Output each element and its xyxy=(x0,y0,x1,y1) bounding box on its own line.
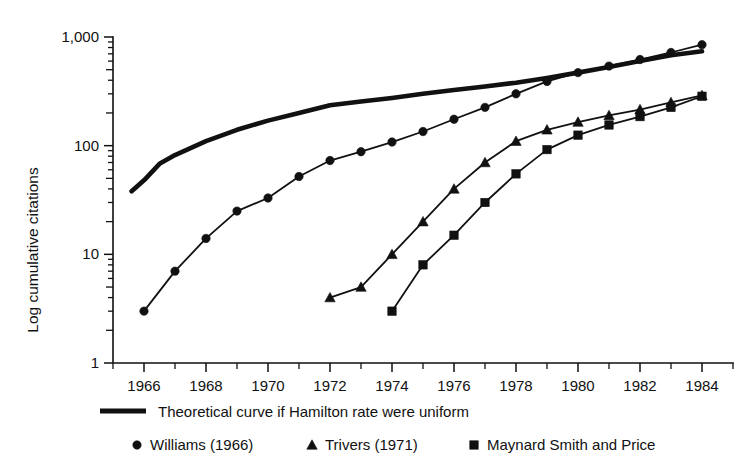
x-tick-label: 1980 xyxy=(561,377,594,394)
chart-canvas: Log cumulative citations 1,000100101 196… xyxy=(0,0,747,473)
x-tick-label: 1966 xyxy=(127,377,160,394)
y-tick-label: 1 xyxy=(91,354,99,371)
data-point-circle xyxy=(450,115,458,123)
data-point-circle xyxy=(171,267,179,275)
series-1 xyxy=(140,40,706,315)
series-path xyxy=(144,45,702,311)
data-point-circle xyxy=(543,77,551,85)
data-point-circle xyxy=(202,234,210,242)
data-point-circle xyxy=(481,103,489,111)
y-axis-ticks: 1,000100101 xyxy=(61,28,113,371)
data-point-circle xyxy=(574,68,582,76)
data-point-square xyxy=(543,145,551,153)
legend-entry-0: Williams (1966) xyxy=(133,436,254,453)
data-point-circle xyxy=(140,307,148,315)
data-point-circle xyxy=(512,90,520,98)
data-point-circle xyxy=(667,48,675,56)
data-point-circle xyxy=(388,138,396,146)
data-point-circle xyxy=(357,147,365,155)
series-layer xyxy=(132,40,708,315)
legend-label-theoretical: Theoretical curve if Hamilton rate were … xyxy=(158,403,469,420)
y-tick-label: 1,000 xyxy=(61,28,99,45)
x-tick-label: 1978 xyxy=(499,377,532,394)
x-tick-label: 1970 xyxy=(251,377,284,394)
y-axis-title: Log cumulative citations xyxy=(24,167,41,333)
data-point-circle xyxy=(233,207,241,215)
y-tick-label: 10 xyxy=(82,245,99,262)
x-tick-label: 1976 xyxy=(437,377,470,394)
data-point-square xyxy=(388,307,396,315)
data-point-circle xyxy=(636,55,644,63)
x-tick-label: 1982 xyxy=(623,377,656,394)
series-2 xyxy=(325,90,707,302)
series-path xyxy=(132,51,702,191)
chart-legend: Theoretical curve if Hamilton rate were … xyxy=(100,403,655,453)
data-point-square xyxy=(481,198,489,206)
data-point-circle xyxy=(326,156,334,164)
data-point-circle xyxy=(295,172,303,180)
data-point-circle xyxy=(419,127,427,135)
data-point-triangle xyxy=(307,440,317,449)
series-0 xyxy=(132,51,702,191)
data-point-square xyxy=(667,103,675,111)
data-point-square xyxy=(698,92,706,100)
x-tick-label: 1984 xyxy=(685,377,718,394)
data-point-circle xyxy=(698,40,706,48)
data-point-square xyxy=(605,121,613,129)
x-axis-ticks: 1966196819701972197419761978198019821984 xyxy=(113,363,733,394)
x-tick-label: 1968 xyxy=(189,377,222,394)
data-point-square xyxy=(574,131,582,139)
data-point-circle xyxy=(264,194,272,202)
series-path xyxy=(330,95,702,297)
legend-label-1: Trivers (1971) xyxy=(325,436,418,453)
data-point-circle xyxy=(605,62,613,70)
data-point-square xyxy=(512,170,520,178)
data-point-square xyxy=(636,112,644,120)
legend-label-2: Maynard Smith and Price xyxy=(487,436,655,453)
legend-label-0: Williams (1966) xyxy=(150,436,253,453)
axis-spine xyxy=(113,37,733,363)
data-point-circle xyxy=(133,441,141,449)
data-point-square xyxy=(470,441,478,449)
legend-entry-2: Maynard Smith and Price xyxy=(470,436,656,453)
x-tick-label: 1972 xyxy=(313,377,346,394)
legend-entry-1: Trivers (1971) xyxy=(307,436,418,453)
x-tick-label: 1974 xyxy=(375,377,408,394)
y-tick-label: 100 xyxy=(74,137,99,154)
data-point-square xyxy=(450,231,458,239)
citation-growth-chart: Log cumulative citations 1,000100101 196… xyxy=(0,0,747,473)
data-point-square xyxy=(419,261,427,269)
data-point-triangle xyxy=(480,157,490,166)
